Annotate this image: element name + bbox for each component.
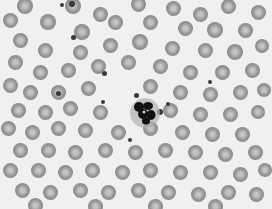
blood-smear-micrograph [0,0,272,209]
neutrophil-cell [0,0,272,209]
